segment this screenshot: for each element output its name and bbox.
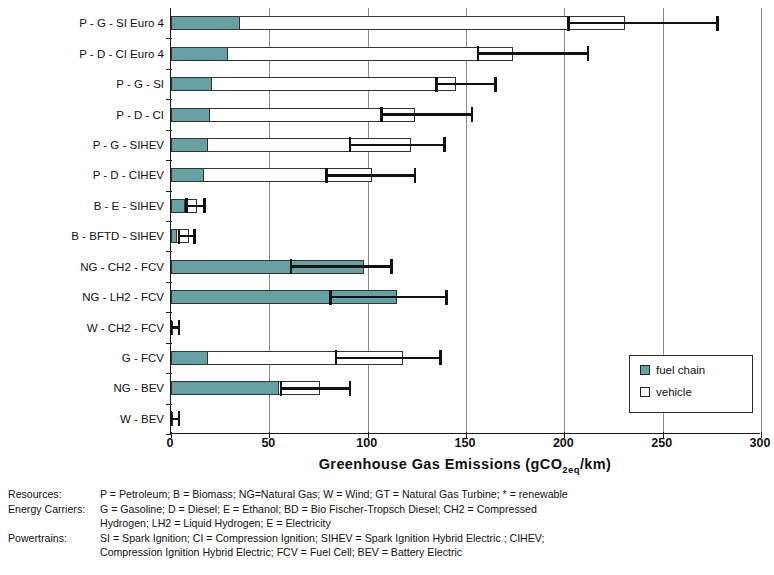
error-bar-cap-high	[445, 290, 448, 305]
x-axis-title: Greenhouse Gas Emissions (gCO2eq/km)	[170, 456, 760, 475]
bar-segment-vehicle	[212, 77, 456, 91]
footnote-row-3: Powertrains:SI = Spark Ignition; CI = Co…	[8, 531, 770, 546]
y-tick	[166, 191, 172, 192]
category-label-11: W - CH2 - FCV	[87, 322, 164, 334]
error-bar-cap-low	[185, 198, 188, 213]
gridline	[564, 8, 565, 433]
error-bar-line	[568, 22, 717, 24]
bar-segment-fuel-chain	[171, 77, 212, 91]
error-bar-cap-high	[471, 107, 474, 122]
error-bar-cap-high	[349, 381, 352, 396]
bar-1	[171, 16, 625, 30]
x-tick-label: 150	[455, 436, 476, 450]
error-bar-line	[330, 296, 446, 298]
bar-segment-fuel-chain	[171, 47, 228, 61]
error-bar-cap-low	[170, 411, 173, 426]
footnote-key: Powertrains:	[8, 531, 100, 546]
footnote-continuation: Hydrogen; LH2 = Liquid Hydrogen; E = Ele…	[100, 516, 770, 531]
y-tick	[166, 312, 172, 313]
category-label-13: NG - BEV	[114, 382, 164, 394]
bar-segment-fuel-chain	[171, 199, 185, 213]
y-tick	[166, 99, 172, 100]
chart-area: P - G - SI Euro 4P - D - CI Euro 4P - G …	[0, 0, 774, 480]
error-bar-cap-low	[380, 107, 383, 122]
footnote-value: SI = Spark Ignition; CI = Compression Ig…	[100, 531, 770, 546]
gridline	[466, 8, 467, 433]
footnote-block: Resources:P = Petroleum; B = Biomass; NG…	[8, 487, 770, 560]
category-label-14: W - BEV	[120, 413, 164, 425]
error-bar-cap-high	[414, 168, 417, 183]
bar-segment-fuel-chain	[171, 381, 279, 395]
y-tick	[166, 38, 172, 39]
error-bar-line	[187, 205, 205, 207]
category-label-3: P - G - SI	[116, 78, 164, 90]
bar-segment-fuel-chain	[171, 168, 204, 182]
error-bar-cap-low	[329, 290, 332, 305]
gridline	[269, 8, 270, 433]
y-tick	[166, 160, 172, 161]
bar-segment-fuel-chain	[171, 108, 210, 122]
x-tick-label: 100	[356, 436, 377, 450]
x-tick-label: 0	[167, 436, 174, 450]
error-bar-cap-low	[178, 229, 181, 244]
error-bar-line	[350, 144, 444, 146]
error-bar-cap-high	[439, 350, 442, 365]
x-tick-label: 200	[553, 436, 574, 450]
error-bar-cap-low	[477, 46, 480, 61]
footnote-value: G = Gasoline; D = Diesel; E = Ethanol; B…	[100, 502, 770, 517]
category-label-5: P - G - SIHEV	[93, 139, 164, 151]
footnote-row-2: Energy Carriers:G = Gasoline; D = Diesel…	[8, 502, 770, 517]
footnote-key: Energy Carriers:	[8, 502, 100, 517]
error-bar-line	[326, 174, 415, 176]
error-bar-cap-high	[716, 16, 719, 31]
error-bar-cap-high	[178, 411, 181, 426]
error-bar-cap-low	[567, 16, 570, 31]
category-label-2: P - D - CI Euro 4	[79, 48, 164, 60]
x-tick-label: 50	[261, 436, 275, 450]
error-bar-cap-high	[443, 137, 446, 152]
category-label-10: NG - LH2 - FCV	[82, 291, 164, 303]
bar-segment-fuel-chain	[171, 16, 240, 30]
footnote-value: P = Petroleum; B = Biomass; NG=Natural G…	[100, 487, 770, 502]
error-bar-cap-low	[435, 77, 438, 92]
bar-3	[171, 77, 456, 91]
error-bar-cap-low	[290, 259, 293, 274]
error-bar-cap-high	[494, 77, 497, 92]
legend-label-vehicle: vehicle	[656, 386, 692, 398]
error-bar-cap-high	[178, 320, 181, 335]
category-label-12: G - FCV	[122, 352, 164, 364]
axis-title-subscript: 2eq	[562, 464, 580, 475]
error-bar-cap-low	[170, 320, 173, 335]
error-bar-line	[179, 235, 195, 237]
category-label-8: B - BFTD - SIHEV	[71, 230, 164, 242]
error-bar-line	[381, 113, 471, 115]
category-label-4: P - D - CI	[116, 109, 164, 121]
error-bar-cap-low	[335, 350, 338, 365]
error-bar-line	[291, 265, 391, 267]
error-bar-cap-low	[349, 137, 352, 152]
error-bar-cap-high	[193, 229, 196, 244]
footnote-key: Resources:	[8, 487, 100, 502]
y-tick	[166, 282, 172, 283]
legend-swatch-vehicle	[640, 387, 650, 397]
gridline	[761, 8, 762, 433]
y-tick	[166, 130, 172, 131]
error-bar-line	[478, 52, 588, 54]
x-tick-label: 250	[651, 436, 672, 450]
y-tick	[166, 373, 172, 374]
bar-segment-vehicle	[228, 47, 513, 61]
legend-item-fuel-chain: fuel chain	[640, 364, 752, 376]
y-tick	[166, 404, 172, 405]
footnote-continuation: Compression Ignition Hybrid Electric; FC…	[100, 545, 770, 560]
bar-4	[171, 108, 415, 122]
bar-2	[171, 47, 513, 61]
bar-segment-fuel-chain	[171, 138, 208, 152]
legend-swatch-fuel-chain	[640, 365, 650, 375]
category-label-7: B - E - SIHEV	[94, 200, 164, 212]
category-label-1: P - G - SI Euro 4	[79, 17, 164, 29]
error-bar-cap-high	[587, 46, 590, 61]
error-bar-cap-high	[390, 259, 393, 274]
error-bar-cap-high	[203, 198, 206, 213]
error-bar-cap-low	[280, 381, 283, 396]
error-bar-line	[281, 387, 350, 389]
